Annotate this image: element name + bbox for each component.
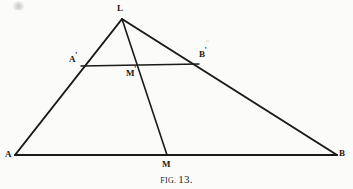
point-label-M: M xyxy=(162,160,170,169)
segment-side-LB xyxy=(122,19,337,155)
point-label-M-prime: M' xyxy=(126,69,137,78)
figure-caption: FIG.13. xyxy=(0,170,353,186)
point-label-L: L xyxy=(117,4,123,13)
segment-cevian-LM xyxy=(122,19,167,155)
point-label-B: B xyxy=(339,149,345,158)
triangle-geometry-drawing xyxy=(0,0,353,189)
segment-midline-ApBp xyxy=(81,64,199,66)
segment-side-LA xyxy=(15,19,122,155)
figure-13-diagram: L A' B' M' A B M FIG.13. xyxy=(0,0,353,189)
caption-fig-word: FIG. xyxy=(160,176,176,185)
point-label-A-prime: A' xyxy=(69,55,78,64)
point-label-B-prime: B' xyxy=(199,50,207,59)
point-label-A: A xyxy=(5,150,11,159)
caption-fig-number: 13. xyxy=(178,173,192,185)
